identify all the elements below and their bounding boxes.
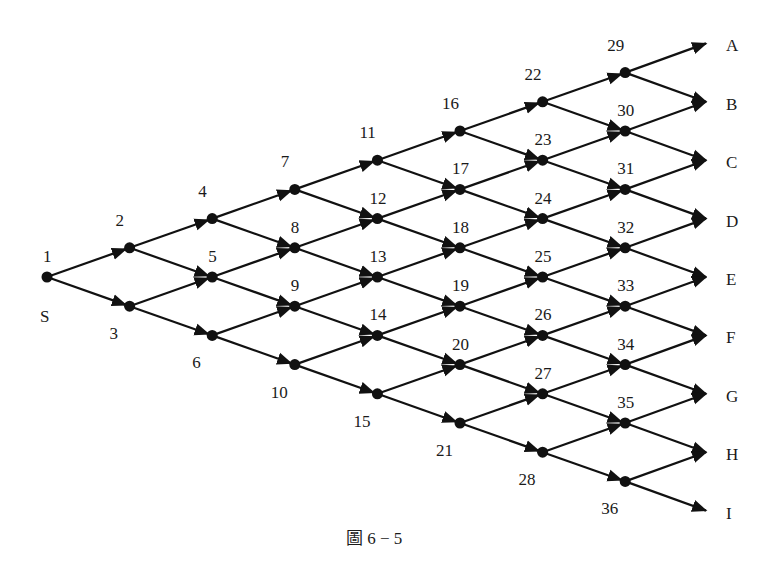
node-7 bbox=[289, 184, 300, 195]
edge bbox=[295, 162, 374, 190]
node-label: 6 bbox=[192, 353, 201, 372]
edge bbox=[625, 160, 706, 189]
node-34 bbox=[620, 359, 631, 370]
node-11 bbox=[372, 155, 383, 166]
figure-caption: 圖 6 − 5 bbox=[346, 529, 402, 548]
node-30 bbox=[620, 126, 631, 137]
node-label: 30 bbox=[617, 101, 634, 120]
node-25 bbox=[537, 272, 548, 283]
edge bbox=[212, 219, 291, 247]
edge bbox=[625, 481, 706, 510]
node-6 bbox=[207, 330, 218, 341]
edge bbox=[625, 248, 706, 277]
node-label: 19 bbox=[452, 276, 469, 295]
node-label: 23 bbox=[535, 130, 552, 149]
node-18 bbox=[455, 242, 466, 253]
edge bbox=[295, 278, 374, 306]
edge bbox=[543, 394, 622, 422]
node-17 bbox=[455, 184, 466, 195]
node-label: 31 bbox=[617, 159, 634, 178]
node-10 bbox=[289, 359, 300, 370]
node-label: 25 bbox=[535, 247, 552, 266]
terminal-H: H bbox=[726, 445, 738, 464]
node-label: 15 bbox=[353, 412, 370, 431]
edge bbox=[625, 306, 706, 335]
edge bbox=[543, 366, 622, 394]
edge bbox=[543, 308, 622, 336]
node-8 bbox=[289, 242, 300, 253]
edge bbox=[130, 248, 209, 276]
node-21 bbox=[455, 418, 466, 429]
node-label: 33 bbox=[617, 276, 634, 295]
edge bbox=[377, 308, 456, 336]
node-label: 10 bbox=[271, 383, 288, 402]
edge bbox=[460, 423, 539, 451]
node-label: 7 bbox=[281, 152, 290, 171]
edge bbox=[460, 278, 539, 306]
edge bbox=[377, 191, 456, 219]
node-label: 22 bbox=[525, 65, 542, 84]
edge bbox=[295, 365, 374, 393]
node-4 bbox=[207, 213, 218, 224]
edge bbox=[295, 248, 374, 276]
edge bbox=[460, 306, 539, 334]
edge bbox=[212, 308, 291, 336]
edge bbox=[625, 189, 706, 218]
edge bbox=[625, 131, 706, 160]
terminal-labels: ABCDEFGHI bbox=[726, 36, 739, 522]
node-12 bbox=[372, 213, 383, 224]
edge bbox=[460, 248, 539, 276]
edge bbox=[460, 189, 539, 217]
edge bbox=[543, 249, 622, 277]
edge bbox=[625, 452, 706, 481]
node-35 bbox=[620, 418, 631, 429]
edge bbox=[377, 335, 456, 363]
edge bbox=[543, 219, 622, 247]
terminal-E: E bbox=[726, 270, 736, 289]
edge bbox=[377, 219, 456, 247]
terminal-I: I bbox=[726, 504, 732, 523]
node-23 bbox=[537, 155, 548, 166]
node-33 bbox=[620, 301, 631, 312]
node-label: 1 bbox=[43, 247, 52, 266]
edge bbox=[460, 365, 539, 393]
node-1 bbox=[42, 272, 53, 283]
edge bbox=[377, 132, 456, 160]
edge bbox=[377, 160, 456, 188]
node-19 bbox=[455, 301, 466, 312]
node-29 bbox=[620, 67, 631, 78]
node-label: 27 bbox=[535, 364, 553, 383]
edge bbox=[47, 249, 126, 277]
edge bbox=[295, 220, 374, 248]
edge bbox=[212, 249, 291, 277]
node-27 bbox=[537, 388, 548, 399]
node-15 bbox=[372, 388, 383, 399]
node-label: 28 bbox=[519, 470, 536, 489]
edge bbox=[625, 102, 706, 131]
edge bbox=[212, 335, 291, 363]
node-9 bbox=[289, 301, 300, 312]
edge bbox=[543, 74, 622, 102]
edge bbox=[212, 277, 291, 305]
edge bbox=[543, 191, 622, 219]
edge bbox=[130, 306, 209, 334]
edge bbox=[625, 219, 706, 248]
edge bbox=[543, 160, 622, 188]
edge bbox=[460, 162, 539, 190]
node-label: 34 bbox=[617, 335, 635, 354]
node-36 bbox=[620, 476, 631, 487]
node-label: 14 bbox=[369, 305, 387, 324]
node-32 bbox=[620, 242, 631, 253]
node-label: 16 bbox=[442, 94, 459, 113]
node-label: 8 bbox=[291, 218, 300, 237]
network-diagram: 1234567891011121314151617181920212223242… bbox=[0, 0, 778, 566]
node-3 bbox=[124, 301, 135, 312]
edge bbox=[460, 131, 539, 159]
node-label: 4 bbox=[198, 182, 207, 201]
node-label: 9 bbox=[291, 276, 300, 295]
node-label: 13 bbox=[369, 247, 386, 266]
node-label: 3 bbox=[110, 324, 119, 343]
node-label: 26 bbox=[535, 305, 552, 324]
node-label: 11 bbox=[359, 123, 375, 142]
edge bbox=[295, 189, 374, 217]
